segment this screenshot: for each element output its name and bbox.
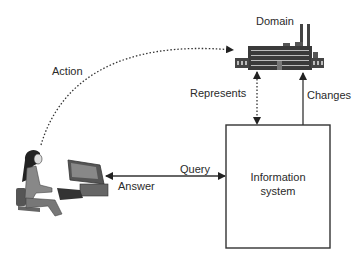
factory-icon — [235, 24, 324, 70]
domain-label: Domain — [256, 15, 294, 27]
action-label: Action — [52, 65, 83, 77]
diagram-canvas — [0, 0, 361, 263]
person-at-computer-icon — [16, 150, 108, 216]
represents-label: Represents — [190, 87, 246, 99]
answer-label: Answer — [118, 180, 155, 192]
information-system-line1: Information — [226, 170, 330, 184]
information-system-line2: system — [226, 184, 330, 198]
changes-label: Changes — [307, 89, 351, 101]
query-label: Query — [180, 163, 210, 175]
information-system-label: Information system — [226, 170, 330, 198]
